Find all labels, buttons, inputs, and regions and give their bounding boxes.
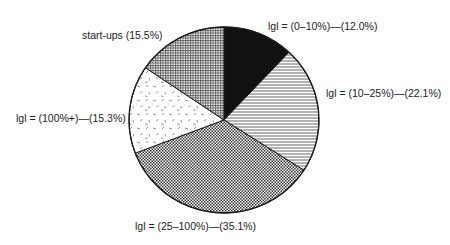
label-slice-25-100: lgl = (25–100%)—(35.1%) [135,220,256,232]
label-slice-start-ups: start-ups (15.5%) [82,29,163,41]
pie-slices [129,27,319,213]
label-slice-100-plus: lgl = (100%+)—(15.3%) [16,112,126,124]
label-slice-10-25: lgl = (10–25%)—(22.1%) [326,87,441,99]
label-slice-0-10: lgl = (0–10%)—(12.0%) [268,20,377,32]
